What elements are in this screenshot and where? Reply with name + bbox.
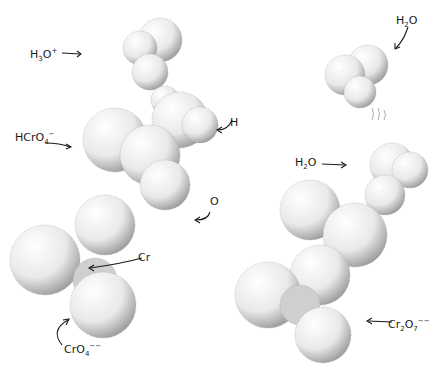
label-o: O <box>210 196 219 208</box>
label-h2o-mid: H2O <box>295 157 316 173</box>
label-cr2o7-2minus: Cr2O7−− <box>388 315 430 335</box>
label-hcro4-minus: HCrO4− <box>15 128 54 148</box>
label-cro4-2minus: CrO4−− <box>64 340 101 360</box>
left-molecule <box>10 18 218 338</box>
label-h: H <box>230 117 238 129</box>
label-cr: Cr <box>138 252 150 264</box>
label-h2o-top: H2O <box>396 15 417 31</box>
molecular-models-illustration <box>0 0 447 384</box>
label-h3o-plus: H3O+ <box>30 45 57 65</box>
